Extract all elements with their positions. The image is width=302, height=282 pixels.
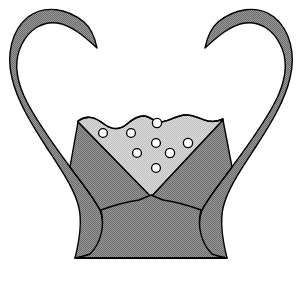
bubble-icon [165, 148, 174, 157]
bubble-icon [133, 149, 142, 158]
chalice-illustration: Two-handled chalice containing liquid wi… [0, 0, 302, 282]
illustration-canvas: Two-handled chalice containing liquid wi… [0, 0, 302, 282]
bubble-icon [152, 164, 161, 173]
bubble-icon [99, 129, 108, 138]
bubble-icon [152, 118, 161, 127]
bubble-icon [127, 129, 136, 138]
bubble-icon [152, 139, 161, 148]
bubble-icon [183, 138, 192, 147]
